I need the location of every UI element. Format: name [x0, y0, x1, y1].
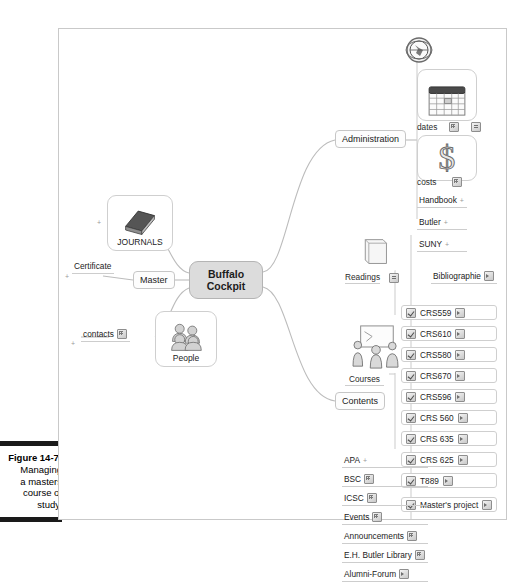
course-item[interactable]: CRS580	[401, 347, 497, 362]
calendar-icon	[425, 85, 469, 117]
central-node[interactable]: Buffalo Cockpit	[189, 261, 263, 299]
course-label: CRS 635	[420, 434, 454, 444]
grid-icon[interactable]	[407, 531, 417, 541]
leaf-label: E.H. Butler Library	[344, 550, 412, 560]
checkbox-icon[interactable]	[406, 308, 416, 318]
grid-icon[interactable]	[452, 177, 462, 187]
courses-label: Courses	[345, 374, 384, 386]
certificate-label: Certificate	[74, 261, 111, 271]
book-icon	[122, 206, 158, 236]
node-people[interactable]: People	[155, 311, 217, 367]
expand-marker[interactable]: +	[363, 457, 367, 464]
speaker-icon[interactable]	[455, 350, 465, 360]
central-line-1: Buffalo	[207, 268, 246, 281]
branch-master[interactable]: Master	[133, 271, 175, 289]
leaf-label: BSC	[344, 474, 361, 484]
checkbox-icon[interactable]	[406, 350, 416, 360]
course-item[interactable]: CRS 635	[401, 431, 497, 446]
contacts-expand-marker[interactable]: +	[71, 340, 75, 347]
leaf-apa[interactable]: APA +	[342, 455, 428, 468]
checkbox-icon[interactable]	[406, 434, 416, 444]
course-label: Master's project	[420, 500, 478, 510]
course-item[interactable]: CRS670	[401, 368, 497, 383]
mindmap-canvas: Buffalo Cockpit Administration dates	[58, 28, 507, 520]
node-courses[interactable]	[343, 315, 409, 373]
course-item[interactable]: CRS596	[401, 389, 497, 404]
course-item[interactable]: CRS610	[401, 326, 497, 341]
leaf-butler[interactable]: Butler +	[417, 217, 467, 230]
leaf-butler-label: Butler	[419, 217, 441, 227]
dollar-icon: $	[432, 139, 462, 177]
svg-text:$: $	[439, 139, 456, 176]
leaf-certificate[interactable]: Certificate	[72, 261, 114, 274]
figure-number: Figure 14-7:	[0, 452, 62, 464]
expand-marker[interactable]: +	[460, 197, 464, 204]
administration-leaves: Handbook + Butler + SUNY +	[417, 195, 467, 252]
leaf-bibliographie[interactable]: Bibliographie	[431, 271, 497, 284]
readings-label: Readings	[345, 272, 380, 284]
leaf-alumni-forum[interactable]: Alumni-Forum	[342, 569, 428, 582]
leaf-bsc[interactable]: BSC	[342, 474, 428, 487]
dates-label-row: dates	[417, 122, 481, 132]
leaf-icsc[interactable]: ICSC	[342, 493, 428, 506]
caption-line-2: a masters	[0, 476, 62, 488]
speaker-icon[interactable]	[458, 434, 468, 444]
checkbox-icon[interactable]	[406, 371, 416, 381]
leaf-announcements[interactable]: Announcements	[342, 531, 428, 544]
note-icon[interactable]	[389, 273, 399, 283]
caption-text: Figure 14-7: Managing a masters course o…	[0, 452, 62, 511]
speaker-icon[interactable]	[443, 476, 453, 486]
grid-icon[interactable]	[364, 474, 374, 484]
node-readings[interactable]	[349, 227, 401, 271]
branch-administration[interactable]: Administration	[335, 130, 406, 148]
speaker-icon[interactable]	[399, 569, 409, 579]
grid-icon[interactable]	[117, 329, 127, 339]
caption-line-4: study.	[0, 499, 62, 511]
speaker-icon[interactable]	[455, 308, 465, 318]
speaker-icon[interactable]	[455, 329, 465, 339]
speaker-icon[interactable]	[484, 271, 494, 281]
leaf-suny[interactable]: SUNY +	[417, 239, 467, 252]
course-label: CRS580	[420, 350, 451, 360]
branch-contents[interactable]: Contents	[335, 392, 385, 410]
speaker-icon[interactable]	[482, 500, 492, 510]
costs-label-row: costs	[417, 177, 462, 187]
leaf-suny-label: SUNY	[419, 239, 442, 249]
node-journals[interactable]: JOURNALS	[107, 195, 173, 251]
book-icon	[360, 236, 390, 268]
expand-marker[interactable]: +	[444, 219, 448, 226]
grid-icon[interactable]	[367, 493, 377, 503]
grid-icon[interactable]	[449, 122, 459, 132]
course-label: CRS596	[420, 392, 451, 402]
figure-caption: Figure 14-7: Managing a masters course o…	[0, 441, 62, 522]
leaf-label: Alumni-Forum	[344, 569, 396, 579]
note-icon[interactable]	[471, 122, 481, 132]
speaker-icon[interactable]	[458, 413, 468, 423]
grid-icon[interactable]	[372, 512, 382, 522]
speaker-icon[interactable]	[455, 371, 465, 381]
caption-rule-bottom	[0, 517, 62, 522]
expand-marker[interactable]: +	[445, 241, 449, 248]
course-label: CRS559	[420, 308, 451, 318]
leaf-contacts[interactable]: contacts	[81, 329, 130, 342]
leaf-handbook-label: Handbook	[419, 195, 457, 205]
leaf-label: ICSC	[344, 493, 364, 503]
course-item[interactable]: CRS559	[401, 305, 497, 320]
grid-icon[interactable]	[415, 550, 425, 560]
leaf-butler-library[interactable]: E.H. Butler Library	[342, 550, 428, 563]
speaker-icon[interactable]	[458, 455, 468, 465]
leaf-handbook[interactable]: Handbook +	[417, 195, 467, 208]
leaf-events[interactable]: Events	[342, 512, 428, 525]
checkbox-icon[interactable]	[406, 392, 416, 402]
speaker-icon[interactable]	[455, 392, 465, 402]
node-dates[interactable]	[417, 69, 477, 121]
checkbox-icon[interactable]	[406, 413, 416, 423]
course-label: CRS 560	[420, 413, 454, 423]
certificate-expand-marker[interactable]: +	[65, 273, 69, 280]
course-item[interactable]: CRS 560	[401, 410, 497, 425]
journals-expand-marker[interactable]: +	[97, 219, 101, 226]
caption-line-1: Managing	[0, 464, 62, 476]
people-label: People	[173, 353, 199, 363]
checkbox-icon[interactable]	[406, 329, 416, 339]
node-costs[interactable]: $	[417, 135, 477, 181]
